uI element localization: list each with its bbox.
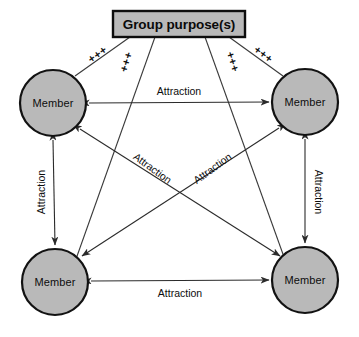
attraction-label-diagonal-topright-bottomleft: Attraction: [191, 150, 234, 186]
diagram-canvas: Member Member Member Member Group purpos…: [0, 0, 359, 337]
attraction-label-bottom-horizontal: Attraction: [158, 287, 203, 299]
plus-label-to-bottom-left: +++: [117, 50, 135, 73]
attraction-label-diagonal-topleft-bottomright: Attraction: [131, 150, 174, 186]
group-purpose-label: Group purpose(s): [123, 17, 235, 32]
member-label-bottom-left: Member: [35, 276, 76, 288]
member-label-top-left: Member: [33, 97, 74, 109]
edge-bottom-horizontal: [91, 280, 269, 281]
plus-label-to-bottom-right: +++: [224, 50, 242, 73]
attraction-label-right-vertical: Attraction: [313, 170, 325, 215]
edge-left-vertical: [53, 140, 55, 245]
purpose-line-to-bottom-left: [76, 37, 155, 259]
group-purpose-box[interactable]: Group purpose(s): [113, 11, 245, 37]
purpose-link-lines: [75, 37, 284, 259]
edge-top-horizontal: [89, 102, 269, 103]
purpose-line-to-bottom-right: [205, 37, 284, 257]
member-label-top-right: Member: [285, 96, 326, 108]
member-node-top-left[interactable]: Member: [20, 70, 86, 136]
member-label-bottom-right: Member: [285, 274, 326, 286]
member-node-bottom-right[interactable]: Member: [272, 247, 338, 313]
group-cohesiveness-diagram: Member Member Member Member Group purpos…: [0, 0, 359, 337]
purpose-strength-labels: +++ +++ +++ +++: [85, 43, 275, 73]
member-node-top-right[interactable]: Member: [272, 69, 338, 135]
attraction-label-left-vertical: Attraction: [35, 170, 47, 215]
member-node-bottom-left[interactable]: Member: [22, 249, 88, 315]
attraction-label-top-horizontal: Attraction: [157, 85, 202, 97]
plus-label-to-top-left: +++: [85, 43, 109, 65]
attraction-edge-lines: [53, 102, 305, 281]
